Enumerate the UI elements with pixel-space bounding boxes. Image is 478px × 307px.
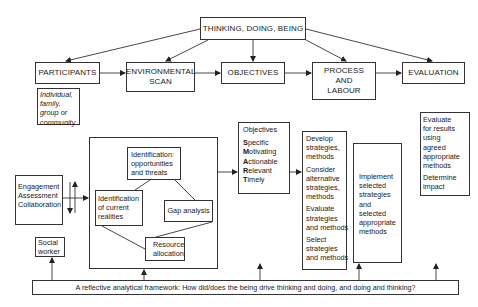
social-worker-box: Social worker	[35, 237, 65, 257]
strategy-group: Evaluate strategies and methods	[306, 204, 343, 232]
cycle-line: Identification	[98, 194, 140, 203]
participants-box: PARTICIPANTS	[35, 62, 100, 84]
evaluate-group: Evaluate for results using agreed approp…	[423, 115, 467, 170]
objectives-box: OBJECTIVES	[221, 62, 285, 84]
cycle-line: realities	[98, 212, 140, 221]
process-label-line: LABOUR	[327, 86, 361, 96]
evaluate-group: Determine impact	[423, 173, 467, 191]
environmental-scan-label: ENVIRONMENTAL SCAN	[126, 67, 195, 87]
process-label-line: PROCESS	[324, 66, 364, 76]
engagement-line: Engagement	[18, 182, 61, 191]
objectives-label: OBJECTIVES	[228, 68, 279, 78]
cycle-line: of current	[98, 203, 140, 212]
smart-item: Specific	[243, 138, 285, 147]
note-line: family,	[40, 99, 77, 108]
resource-allocation-box: Resource allocation	[145, 237, 185, 261]
reflective-framework-bar: A reflective analytical framework: How d…	[32, 280, 459, 295]
smart-objectives-box: Objectives Specific Motivating Actionabl…	[238, 122, 290, 194]
note-line: community	[40, 118, 77, 127]
smart-item: Relevant	[243, 166, 285, 175]
cycle-line: opportunities	[131, 159, 177, 168]
framework-text: A reflective analytical framework: How d…	[75, 283, 415, 292]
smart-item: Actionable	[243, 157, 285, 166]
smart-item: Timely	[243, 175, 285, 184]
cycle-line: allocation	[153, 249, 184, 258]
current-realities-box: Identification of current realities	[95, 190, 143, 226]
implement-box: Implement selected strategies and select…	[353, 143, 402, 263]
strategy-group: Consider alternative strategies, methods	[306, 165, 343, 202]
engagement-line: Assessment	[18, 191, 61, 200]
smart-title: Objectives	[243, 125, 285, 134]
cycle-line: Identification:	[131, 150, 177, 159]
thinking-doing-being-box: THINKING, DOING, BEING	[200, 17, 306, 40]
cycle-line: Resource	[153, 240, 184, 249]
cycle-line: and threats	[131, 168, 177, 177]
smart-item: Motivating	[243, 147, 285, 156]
strategies-box: Develop strategies, methods Consider alt…	[302, 131, 347, 270]
gap-analysis-box: Gap analysis	[164, 200, 213, 222]
root-label: THINKING, DOING, BEING	[203, 24, 303, 34]
strategy-group: Select strategies and methods	[306, 235, 343, 263]
evaluation-label: EVALUATION	[408, 68, 459, 78]
participants-label: PARTICIPANTS	[38, 68, 96, 78]
evaluate-results-box: Evaluate for results using agreed approp…	[420, 112, 470, 196]
opportunities-threats-box: Identification: opportunities and threat…	[127, 147, 181, 180]
strategy-group: Develop strategies, methods	[306, 134, 343, 162]
engagement-box: Engagement Assessment Collaboration	[15, 175, 63, 225]
note-line: group or	[40, 108, 77, 117]
process-and-labour-box: PROCESS AND LABOUR	[312, 62, 376, 100]
note-line: Individual,	[40, 90, 77, 99]
gap-analysis-label: Gap analysis	[167, 206, 209, 215]
environmental-scan-box: ENVIRONMENTAL SCAN	[126, 62, 195, 92]
evaluation-box: EVALUATION	[402, 62, 465, 84]
participants-note-box: Individual, family, group or community	[37, 88, 80, 125]
process-label-line: AND	[335, 76, 352, 86]
engagement-line: Collaboration	[18, 200, 61, 209]
